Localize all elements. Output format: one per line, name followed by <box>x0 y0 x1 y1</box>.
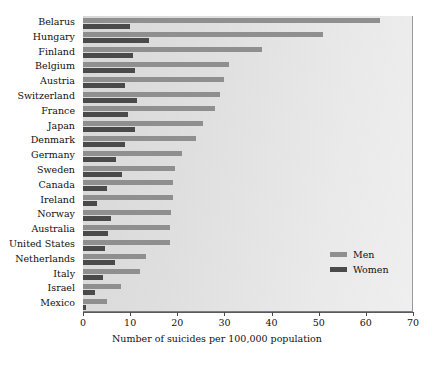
bar-men <box>83 284 121 289</box>
bar-women <box>83 186 107 191</box>
suicide-rate-bar-chart: BelarusHungaryFinlandBelgiumAustriaSwitz… <box>0 0 434 365</box>
bar-men <box>83 136 196 141</box>
x-tick <box>83 312 84 316</box>
chart-legend: MenWomen <box>330 248 389 278</box>
bar-women <box>83 290 95 295</box>
x-tick <box>130 312 131 316</box>
x-tick <box>177 312 178 316</box>
bar-women <box>83 172 122 177</box>
x-tick-label-70: 70 <box>398 317 428 328</box>
x-tick <box>272 312 273 316</box>
x-axis-line <box>83 312 413 313</box>
y-axis-label-italy: Italy <box>53 269 75 279</box>
y-axis-label-australia: Australia <box>31 224 75 234</box>
x-tick <box>319 312 320 316</box>
legend-item-women: Women <box>330 263 389 276</box>
x-tick <box>366 312 367 316</box>
x-tick-label-30: 30 <box>209 317 239 328</box>
y-axis-label-hungary: Hungary <box>33 32 75 42</box>
bar-men <box>83 269 140 274</box>
y-axis-label-japan: Japan <box>48 121 75 131</box>
y-axis-label-belarus: Belarus <box>38 17 75 27</box>
y-axis-label-united-states: United States <box>9 239 75 249</box>
bar-men <box>83 62 229 67</box>
y-axis-label-israel: Israel <box>48 283 76 293</box>
bar-men <box>83 166 175 171</box>
y-axis-label-germany: Germany <box>31 150 75 160</box>
legend-swatch-icon-women <box>330 267 347 272</box>
bar-women <box>83 305 86 310</box>
y-axis-label-france: France <box>41 106 75 116</box>
y-axis-label-denmark: Denmark <box>31 135 75 145</box>
y-axis-label-mexico: Mexico <box>40 298 75 308</box>
bar-women <box>83 127 135 132</box>
bar-men <box>83 210 171 215</box>
bar-men <box>83 77 224 82</box>
bar-men <box>83 195 173 200</box>
bar-women <box>83 83 125 88</box>
y-axis-label-austria: Austria <box>40 76 75 86</box>
x-axis-title: Number of suicides per 100,000 populatio… <box>0 333 434 344</box>
x-tick-label-20: 20 <box>162 317 192 328</box>
x-tick-label-50: 50 <box>304 317 334 328</box>
bar-women <box>83 157 116 162</box>
x-tick-label-10: 10 <box>115 317 145 328</box>
bar-women <box>83 201 97 206</box>
y-axis-label-sweden: Sweden <box>37 165 75 175</box>
bar-women <box>83 231 108 236</box>
bar-women <box>83 53 133 58</box>
bar-men <box>83 92 220 97</box>
bar-men <box>83 254 146 259</box>
bar-women <box>83 112 128 117</box>
bar-women <box>83 142 125 147</box>
bar-women <box>83 38 149 43</box>
y-axis-label-finland: Finland <box>38 47 75 57</box>
y-axis-label-ireland: Ireland <box>40 195 75 205</box>
y-axis-label-switzerland: Switzerland <box>17 91 75 101</box>
legend-label: Men <box>353 249 374 260</box>
bar-women <box>83 68 135 73</box>
bar-women <box>83 246 105 251</box>
bar-women <box>83 216 111 221</box>
x-tick-label-60: 60 <box>351 317 381 328</box>
bar-men <box>83 299 107 304</box>
bar-men <box>83 151 182 156</box>
y-axis-label-netherlands: Netherlands <box>15 254 75 264</box>
bar-women <box>83 275 103 280</box>
y-axis-label-belgium: Belgium <box>35 61 75 71</box>
y-axis-label-canada: Canada <box>39 180 75 190</box>
y-axis-label-norway: Norway <box>37 209 75 219</box>
y-axis-category-labels: BelarusHungaryFinlandBelgiumAustriaSwitz… <box>0 16 79 312</box>
legend-swatch-icon-men <box>330 252 347 257</box>
x-tick <box>413 312 414 316</box>
bar-women <box>83 24 130 29</box>
legend-item-men: Men <box>330 248 389 261</box>
bar-men <box>83 225 170 230</box>
bar-women <box>83 98 137 103</box>
bar-men <box>83 106 215 111</box>
bar-men <box>83 32 323 37</box>
bar-men <box>83 18 380 23</box>
bar-men <box>83 121 203 126</box>
x-tick-label-0: 0 <box>68 317 98 328</box>
x-tick <box>224 312 225 316</box>
x-tick-label-40: 40 <box>257 317 287 328</box>
bar-men <box>83 240 170 245</box>
legend-label: Women <box>353 264 389 275</box>
bar-men <box>83 47 262 52</box>
bar-women <box>83 260 115 265</box>
bar-men <box>83 180 173 185</box>
